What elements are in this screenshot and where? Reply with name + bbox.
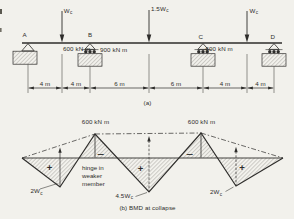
caption-part-b: (b) BMD at collapse (119, 205, 175, 211)
load-2-symbol: 1.5W (151, 5, 166, 12)
load-2-label: 1.5Wc (151, 6, 169, 13)
load-arrow-1 (60, 11, 65, 42)
support-label-c: C (199, 34, 204, 40)
bmd-sign-positive-2: + (138, 164, 144, 174)
support-d-roller (262, 44, 286, 67)
bmd-reactant-lines (22, 133, 283, 158)
ordinate-1-subscript: c (40, 191, 42, 196)
load-2-subscript: c (166, 8, 168, 13)
support-a-pin (13, 44, 37, 65)
load-arrow-3 (245, 11, 250, 42)
bmd-peak-label-1: 600 kN m (82, 119, 109, 125)
load-arrow-2 (147, 10, 152, 42)
ordinate-2-subscript: c (131, 195, 133, 200)
bmd-peak-label-2: 600 kN m (188, 119, 215, 125)
support-label-d: D (271, 34, 276, 40)
hinge-annotation: hinge in weaker member (82, 164, 105, 189)
figure-canvas (0, 0, 294, 219)
support-label-a: A (23, 32, 27, 38)
load-3-symbol: W (249, 7, 255, 14)
moment-capacity-label-2: 900 kN m (100, 47, 127, 53)
dim-label-2: 4 m (71, 81, 82, 87)
label-leader-lines (40, 184, 234, 197)
dim-label-1: 4 m (40, 81, 51, 87)
dim-label-5: 4 m (220, 81, 231, 87)
moment-capacity-label-1: 600 kN m (63, 46, 90, 52)
dim-label-4: 6 m (171, 81, 182, 87)
caption-part-a: (a) (144, 100, 152, 106)
load-1-label: Wc (64, 8, 73, 15)
hinge-annotation-line-3: member (82, 180, 105, 188)
bmd-sign-negative-2: − (186, 151, 193, 159)
ordinate-label-2: 4.5Wc (116, 193, 134, 200)
moment-capacity-label-3: 600 kN m (206, 46, 233, 52)
figure-page: Wc 1.5Wc Wc A B C D 600 kN m 900 kN m 60… (0, 0, 294, 219)
bmd-sign-positive-3: + (239, 163, 245, 173)
ordinate-label-3: 2Wc (210, 189, 222, 196)
bmd-sign-positive-1: + (47, 163, 53, 173)
bmd-region-positive-2 (117, 158, 179, 192)
hinge-annotation-line-2: weaker (82, 172, 105, 180)
load-3-label: Wc (249, 8, 258, 15)
ordinate-1-value: 2W (31, 187, 40, 194)
ordinate-3-value: 2W (210, 188, 219, 195)
ordinate-3-subscript: c (220, 192, 222, 197)
extension-lines (28, 54, 274, 93)
ordinate-label-1: 2Wc (31, 188, 43, 195)
scan-artifact (0, 9, 2, 32)
ordinate-2-value: 4.5W (116, 192, 131, 199)
beam-elevation (13, 10, 286, 93)
bmd-sign-negative-1: − (97, 151, 104, 159)
load-1-symbol: W (64, 7, 70, 14)
support-label-b: B (88, 32, 92, 38)
dim-label-3: 6 m (114, 81, 125, 87)
hinge-annotation-line-1: hinge in (82, 164, 105, 172)
dim-label-6: 4 m (255, 81, 266, 87)
load-3-subscript: c (256, 10, 258, 15)
